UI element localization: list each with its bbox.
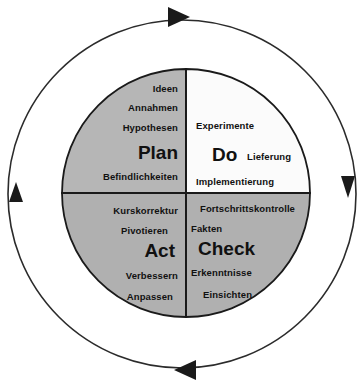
act-item-pivotieren: Pivotieren [38,226,168,236]
check-item-fakten: Fakten [191,224,222,234]
act-title: Act [40,241,175,260]
pdca-labels: Ideen Annahmen Hypothesen Plan Befindlic… [0,0,363,386]
act-item-anpassen: Anpassen [38,292,173,302]
check-title: Check [198,239,255,258]
plan-item-befindlichkeiten: Befindlichkeiten [30,172,178,182]
plan-item-hypothesen: Hypothesen [30,123,178,133]
check-item-fortschrittskontrolle: Fortschrittskontrolle [200,204,295,214]
plan-item-ideen: Ideen [48,84,178,94]
do-item-experimente: Experimente [196,121,254,131]
plan-item-annahmen: Annahmen [38,103,178,113]
act-item-verbessern: Verbessern [38,271,178,281]
plan-title: Plan [40,143,178,162]
do-item-lieferung: Lieferung [247,152,291,162]
check-item-einsichten: Einsichten [203,290,252,300]
do-title: Do [212,145,237,164]
pdca-cycle-diagram: Ideen Annahmen Hypothesen Plan Befindlic… [0,0,363,386]
act-item-kurskorrektur: Kurskorrektur [38,206,178,216]
do-item-implementierung: Implementierung [196,177,274,187]
check-item-erkenntnisse: Erkenntnisse [191,268,252,278]
